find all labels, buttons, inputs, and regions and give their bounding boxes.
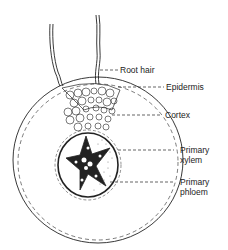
label-primary-xylem-line1: Primary (180, 145, 209, 155)
label-epidermis: Epidermis (166, 82, 204, 92)
label-primary-xylem: Primary xylem (180, 145, 209, 165)
label-root-hair: Root hair (120, 65, 155, 75)
root-hair-right (95, 15, 100, 84)
label-primary-xylem-line2: xylem (180, 155, 209, 165)
root-hair-left (50, 24, 63, 86)
label-primary-phloem: Primary phloem (180, 177, 209, 197)
label-primary-phloem-line1: Primary (180, 177, 209, 187)
label-cortex: Cortex (165, 110, 190, 120)
label-primary-phloem-line2: phloem (180, 187, 209, 197)
root-cross-section-diagram (0, 0, 228, 250)
